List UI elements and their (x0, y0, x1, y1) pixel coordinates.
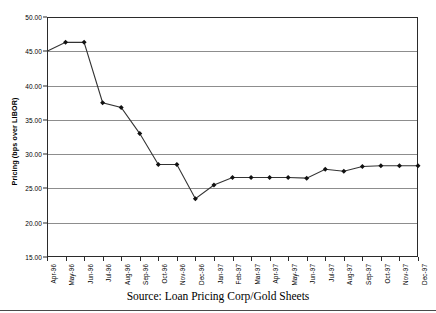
x-tick-label: Apr-97 (272, 264, 279, 284)
x-tick-mark (140, 257, 141, 261)
pricing-line-chart: 50.0045.0040.0035.0030.0025.0020.0015.00… (0, 0, 436, 313)
x-tick-label: Jun-97 (309, 264, 316, 284)
data-point (63, 40, 68, 45)
x-tick-label: Jul-96 (105, 264, 112, 282)
x-tick-label: Aug-97 (346, 264, 353, 285)
x-tick-mark (344, 257, 345, 261)
x-tick-label: Jul-97 (328, 264, 335, 282)
x-tick-mark (177, 257, 178, 261)
data-point (323, 167, 328, 172)
x-tick-mark (158, 257, 159, 261)
data-point (304, 176, 309, 181)
data-point (360, 164, 365, 169)
y-tick-label: 45.00 (25, 48, 42, 55)
y-tick-label: 25.00 (25, 185, 42, 192)
x-tick-mark (362, 257, 363, 261)
x-tick-mark (66, 257, 67, 261)
x-tick-label: Oct-96 (161, 264, 168, 284)
x-tick-mark (195, 257, 196, 261)
y-tick-label: 20.00 (25, 219, 42, 226)
data-point (82, 40, 87, 45)
x-tick-mark (418, 257, 419, 261)
y-axis: 50.0045.0040.0035.0030.0025.0020.0015.00 (0, 0, 47, 274)
x-tick-mark (121, 257, 122, 261)
x-tick-mark (233, 257, 234, 261)
x-tick-mark (288, 257, 289, 261)
x-tick-label: Dec-96 (198, 264, 205, 285)
x-tick-mark (214, 257, 215, 261)
y-tick-label: 35.00 (25, 116, 42, 123)
bottom-rule (0, 310, 436, 312)
x-tick-mark (84, 257, 85, 261)
x-tick-label: Apr-96 (50, 264, 57, 284)
y-tick-label: 50.00 (25, 14, 42, 21)
data-point (174, 162, 179, 167)
y-tick-label: 40.00 (25, 82, 42, 89)
x-tick-label: Nov-97 (402, 264, 409, 285)
x-tick-mark (325, 257, 326, 261)
x-tick-label: Oct-97 (384, 264, 391, 284)
x-tick-label: Aug-96 (124, 264, 131, 285)
source-caption: Source: Loan Pricing Corp/Gold Sheets (0, 290, 436, 302)
data-point (286, 175, 291, 180)
data-series-layer (47, 17, 418, 257)
x-tick-label: May-97 (291, 264, 298, 286)
x-tick-label: Jan-97 (217, 264, 224, 284)
x-tick-mark (399, 257, 400, 261)
data-point (378, 163, 383, 168)
data-point (230, 175, 235, 180)
x-tick-mark (307, 257, 308, 261)
data-point (341, 169, 346, 174)
x-tick-label: Mar-97 (254, 264, 261, 285)
data-point (100, 100, 105, 105)
data-point (156, 162, 161, 167)
y-axis-title: Pricing (bps over LIBOR) (10, 42, 19, 242)
x-tick-mark (270, 257, 271, 261)
x-tick-mark (103, 257, 104, 261)
x-tick-label: Feb-97 (235, 264, 242, 285)
data-point (267, 175, 272, 180)
x-tick-label: May-96 (68, 264, 75, 286)
x-tick-label: Jun-96 (87, 264, 94, 284)
y-tick-label: 30.00 (25, 151, 42, 158)
x-tick-mark (381, 257, 382, 261)
x-tick-label: Sep-97 (365, 264, 372, 285)
y-tick-label: 15.00 (25, 254, 42, 261)
x-tick-mark (251, 257, 252, 261)
x-tick-label: Nov-96 (179, 264, 186, 285)
x-tick-label: Sep-96 (142, 264, 149, 285)
data-point (416, 163, 421, 168)
x-tick-label: Dec-97 (421, 264, 428, 285)
data-point (249, 175, 254, 180)
x-tick-mark (47, 257, 48, 261)
data-point (397, 163, 402, 168)
